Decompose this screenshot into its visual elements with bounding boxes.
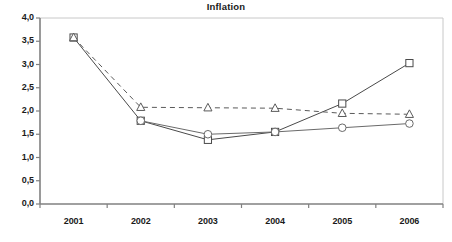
chart-plot-area xyxy=(0,0,452,242)
inflation-chart: Inflation 0,00,51,01,52,02,53,03,54,0 20… xyxy=(0,0,452,242)
y-axis-tick-label: 1,5 xyxy=(8,128,34,138)
y-axis-tick-label: 2,5 xyxy=(8,82,34,92)
data-point-marker xyxy=(204,130,212,138)
series-circle xyxy=(137,117,413,138)
data-point-marker xyxy=(271,128,279,136)
y-axis-tick-label: 0,5 xyxy=(8,175,34,185)
y-axis-tick-label: 3,5 xyxy=(8,35,34,45)
data-point-marker xyxy=(271,104,279,112)
data-point-marker xyxy=(406,60,413,67)
data-point-marker xyxy=(405,110,413,118)
axis-lines xyxy=(40,18,443,204)
x-axis-tick-label: 2003 xyxy=(178,216,238,226)
data-series-group xyxy=(70,33,414,143)
data-point-marker xyxy=(204,103,212,111)
data-point-marker xyxy=(406,120,414,128)
data-point-marker xyxy=(339,100,346,107)
data-point-marker xyxy=(338,124,346,132)
x-axis-tick-label: 2002 xyxy=(111,216,171,226)
data-point-marker xyxy=(137,117,145,125)
y-axis-tick-label: 3,0 xyxy=(8,59,34,69)
x-axis-tick-label: 2006 xyxy=(379,216,439,226)
y-axis-tick-label: 4,0 xyxy=(8,12,34,22)
y-axis-tick-label: 1,0 xyxy=(8,152,34,162)
y-axis-tick-label: 0,0 xyxy=(8,198,34,208)
x-axis-tick-label: 2005 xyxy=(312,216,372,226)
data-point-marker xyxy=(338,109,346,117)
series-line-triangle xyxy=(74,38,410,115)
y-axis-tick-label: 2,0 xyxy=(8,105,34,115)
x-axis-tick-label: 2001 xyxy=(44,216,104,226)
x-axis-tick-label: 2004 xyxy=(245,216,305,226)
series-triangle xyxy=(70,33,414,117)
plot-border xyxy=(40,18,443,204)
series-line-square xyxy=(74,38,410,140)
